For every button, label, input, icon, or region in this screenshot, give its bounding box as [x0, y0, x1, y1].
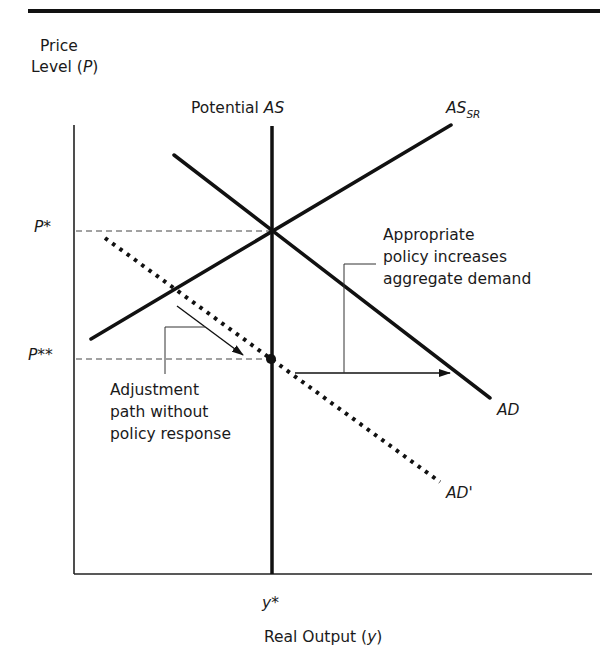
- x-axis-title-prefix: Real Output (: [264, 628, 367, 646]
- chart-plot: [0, 0, 609, 658]
- p-double-star-point: [266, 354, 276, 364]
- potential-as-prefix: Potential: [191, 99, 264, 117]
- adjustment-leader: [165, 327, 205, 374]
- as-sr-main: AS: [446, 99, 466, 117]
- p-double-star-label: P**: [28, 346, 53, 365]
- y-axis-title-line2: Level (P): [31, 58, 98, 77]
- policy-note-line3: aggregate demand: [383, 270, 531, 289]
- y-axis-title-prefix: Level (: [31, 58, 83, 76]
- y-axis-variable: P: [83, 58, 92, 76]
- potential-as-label: Potential AS: [191, 99, 284, 118]
- y-axis-title-line1: Price: [40, 37, 78, 56]
- x-axis-variable: y: [367, 628, 376, 646]
- adjust-note-line1: Adjustment: [110, 381, 199, 400]
- adjust-note-line2: path without: [110, 403, 208, 422]
- potential-as-variable: AS: [264, 99, 284, 117]
- y-star-label: y*: [262, 594, 279, 613]
- as-sr-label: ASSR: [446, 99, 480, 119]
- as-sr-subscript: SR: [466, 108, 480, 120]
- y-axis-title-suffix: ): [92, 58, 98, 76]
- ad-prime-label: AD': [446, 484, 473, 503]
- ad-label: AD: [497, 401, 520, 420]
- policy-leader: [344, 264, 376, 373]
- x-axis-title: Real Output (y): [264, 628, 382, 647]
- adjust-note-line3: policy response: [110, 425, 231, 444]
- x-axis-title-suffix: ): [376, 628, 382, 646]
- policy-note-line1: Appropriate: [383, 226, 474, 245]
- policy-note-line2: policy increases: [383, 248, 507, 267]
- p-star-label: P*: [34, 218, 51, 237]
